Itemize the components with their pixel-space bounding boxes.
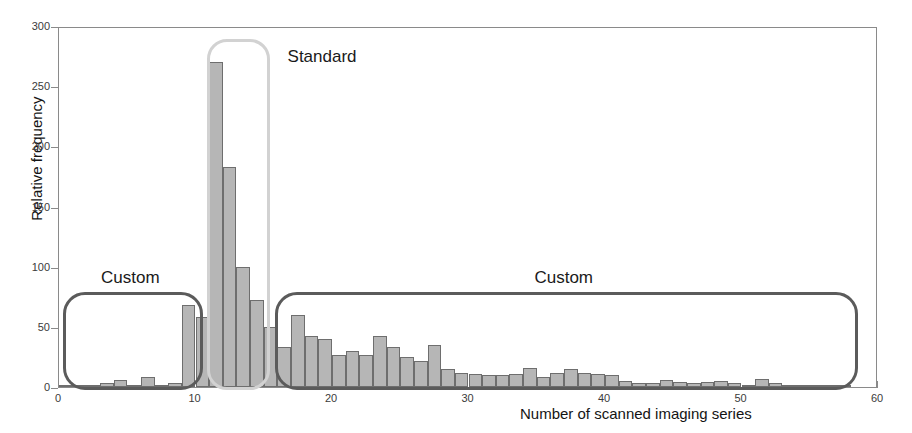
y-tick-mark (51, 27, 58, 28)
y-tick-mark (51, 208, 58, 209)
x-tick-label: 30 (448, 392, 488, 404)
y-tick-mark (51, 328, 58, 329)
x-tick-label: 10 (175, 392, 215, 404)
y-tick-label: 150 (10, 202, 50, 213)
y-tick-mark (51, 268, 58, 269)
x-tick-label: 50 (721, 392, 761, 404)
x-tick-label: 40 (584, 392, 624, 404)
annotation-box-standard (207, 39, 270, 390)
x-tick-mark (877, 381, 878, 388)
y-tick-mark (51, 147, 58, 148)
annotation-label-standard: Standard (288, 47, 357, 67)
annotation-label-custom-left: Custom (101, 268, 160, 288)
y-tick-label: 250 (10, 81, 50, 92)
annotation-label-custom-right: Custom (534, 268, 593, 288)
x-tick-label: 60 (857, 392, 897, 404)
y-tick-label: 100 (10, 262, 50, 273)
y-tick-label: 50 (10, 322, 50, 333)
x-tick-label: 20 (311, 392, 351, 404)
y-tick-mark (51, 388, 58, 389)
y-tick-label: 200 (10, 141, 50, 152)
histogram-figure: Relative frequency 050100150200250300 01… (0, 0, 912, 433)
x-axis-label: Number of scanned imaging series (520, 405, 752, 422)
annotation-box-custom-right (275, 292, 858, 390)
y-tick-mark (51, 87, 58, 88)
x-tick-label: 0 (38, 392, 78, 404)
y-tick-label: 300 (10, 21, 50, 32)
annotation-box-custom-left (63, 292, 202, 390)
